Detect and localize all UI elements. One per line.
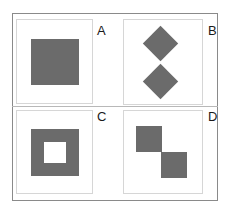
hollow-square-shape [31, 129, 79, 176]
panel-c-label: C [97, 110, 106, 123]
row-divider [12, 106, 218, 107]
hollow-square-hole [44, 142, 66, 163]
panel-d-label: D [208, 110, 217, 123]
panel-a-label: A [97, 24, 106, 37]
upper-left-square-shape [136, 126, 162, 152]
upper-diamond-shape [143, 26, 178, 61]
panel-d[interactable] [123, 110, 203, 194]
panel-a[interactable] [16, 19, 93, 104]
lower-diamond-shape [143, 64, 178, 99]
solid-square-shape [31, 39, 79, 85]
panel-b[interactable] [123, 19, 203, 105]
lower-right-square-shape [161, 152, 187, 178]
panel-c[interactable] [16, 110, 93, 194]
panel-b-label: B [208, 24, 217, 37]
